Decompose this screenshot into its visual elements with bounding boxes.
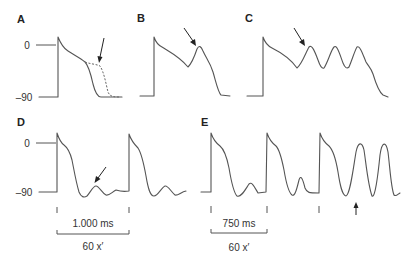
afterdepolarization-figure: A 0 –90 B C D 0 –90 xyxy=(0,0,413,262)
panel-c-arrow-icon xyxy=(294,28,305,46)
panel-d-y-tick-0: 0 xyxy=(24,138,30,149)
panel-b-arrow-icon xyxy=(184,28,196,46)
panel-e: E 750 ms 60 x′ xyxy=(201,116,400,253)
panel-e-interval-label: 750 ms xyxy=(223,218,256,229)
panel-c-label: C xyxy=(245,12,253,24)
panel-d-y-tick-minus90: –90 xyxy=(16,187,33,198)
panel-e-scale-bracket xyxy=(211,229,267,233)
panel-d-label: D xyxy=(17,116,25,128)
panel-d-rate-label: 60 x′ xyxy=(83,241,104,252)
panel-d-trace xyxy=(39,133,186,197)
panel-d-interval-label: 1.000 ms xyxy=(72,218,113,229)
panel-c-trace xyxy=(247,37,388,97)
panel-e-label: E xyxy=(201,116,208,128)
panel-b-label: B xyxy=(137,12,145,24)
panel-d: D 0 –90 1.000 ms 60 x′ xyxy=(16,116,186,252)
panel-b-trace xyxy=(140,37,230,96)
panel-e-trace xyxy=(201,133,400,196)
panel-a-label: A xyxy=(17,13,25,25)
panel-a-y-tick-0: 0 xyxy=(24,40,30,51)
panel-b: B xyxy=(137,12,230,96)
panel-a-prolonged-repolarization xyxy=(85,62,120,97)
panel-a-y-tick-minus90: –90 xyxy=(16,92,33,103)
panel-c: C xyxy=(245,12,388,97)
panel-e-rate-label: 60 x′ xyxy=(229,242,250,253)
panel-d-arrow-icon xyxy=(95,167,107,183)
panel-a-trace xyxy=(39,37,122,97)
panel-a-arrow-icon xyxy=(98,38,105,63)
panel-e-up-arrow-icon xyxy=(354,202,359,215)
panel-d-scale-bracket xyxy=(57,230,129,234)
panel-a: A 0 –90 xyxy=(16,13,122,103)
